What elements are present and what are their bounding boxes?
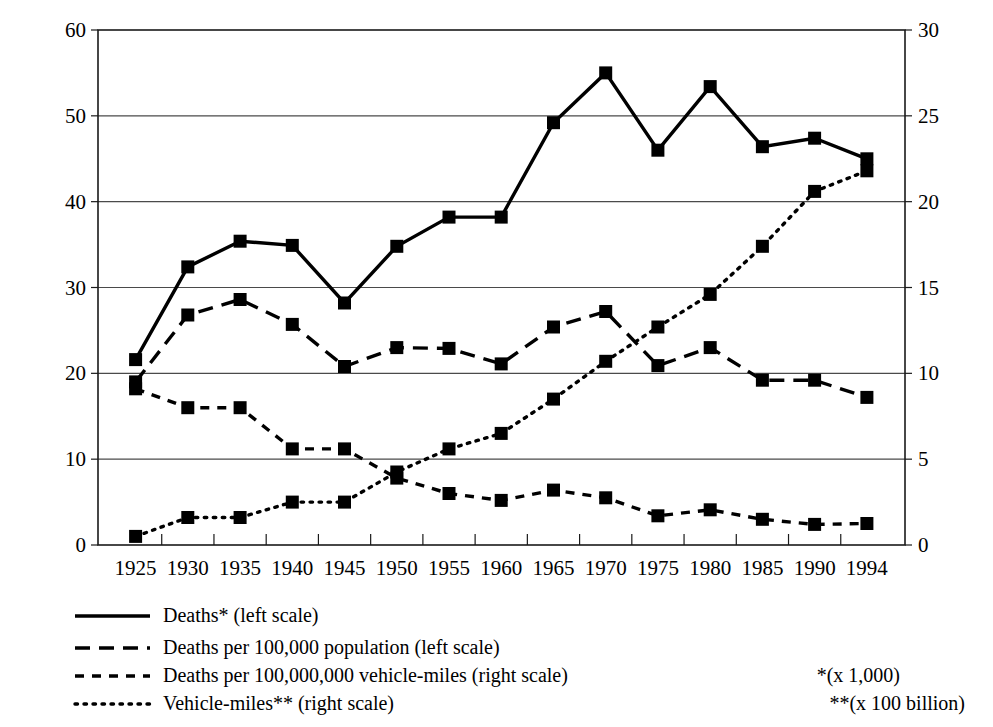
data-point-marker	[495, 427, 508, 440]
y-axis-tick-label: 50	[65, 104, 86, 128]
data-point-marker	[547, 484, 560, 497]
x-axis-tick-label: 1994	[846, 556, 889, 580]
data-point-marker	[547, 116, 560, 129]
data-point-marker	[443, 487, 456, 500]
data-point-marker	[181, 511, 194, 524]
y-axis-tick-label: 30	[65, 276, 86, 300]
data-point-marker	[651, 359, 664, 372]
data-point-marker	[234, 511, 247, 524]
data-point-marker	[338, 297, 351, 310]
data-point-marker	[495, 357, 508, 370]
data-point-marker	[286, 239, 299, 252]
x-axis-tick-label: 1955	[428, 556, 470, 580]
data-point-marker	[756, 140, 769, 153]
y-axis-tick-label: 10	[65, 447, 86, 471]
data-point-marker	[338, 360, 351, 373]
legend-label: Deaths per 100,000 population (left scal…	[163, 636, 500, 659]
y-axis-tick-label: 60	[65, 18, 86, 42]
footnote-deaths-multiplier: *(x 1,000)	[817, 664, 900, 687]
y2-axis-tick-label: 10	[918, 361, 939, 385]
series-2	[129, 293, 873, 404]
data-point-marker	[443, 442, 456, 455]
series-line	[136, 171, 867, 537]
y2-axis-tick-label: 15	[918, 276, 939, 300]
data-point-marker	[234, 293, 247, 306]
data-point-marker	[651, 509, 664, 522]
legend-item-2: Deaths per 100,000 population (left scal…	[75, 636, 500, 659]
series-3	[129, 382, 873, 531]
data-point-marker	[599, 491, 612, 504]
legend-label: Vehicle-miles** (right scale)	[163, 692, 394, 715]
data-point-marker	[286, 318, 299, 331]
chart-figure: 0102030405060051015202530192519301935194…	[0, 0, 993, 727]
data-point-marker	[443, 342, 456, 355]
y2-axis-tick-label: 30	[918, 18, 939, 42]
data-point-marker	[181, 401, 194, 414]
series-1	[129, 66, 873, 366]
data-point-marker	[390, 240, 403, 253]
legend-label: Deaths* (left scale)	[163, 604, 318, 627]
data-point-marker	[443, 211, 456, 224]
data-point-marker	[495, 494, 508, 507]
x-axis-tick-label: 1990	[794, 556, 836, 580]
data-point-marker	[599, 66, 612, 79]
legend-item-4: Vehicle-miles** (right scale)	[75, 692, 394, 715]
data-point-marker	[129, 382, 142, 395]
data-point-marker	[390, 341, 403, 354]
data-point-marker	[808, 185, 821, 198]
data-point-marker	[704, 341, 717, 354]
data-point-marker	[338, 496, 351, 509]
data-point-marker	[286, 442, 299, 455]
data-point-marker	[756, 513, 769, 526]
data-point-marker	[704, 503, 717, 516]
data-point-marker	[547, 393, 560, 406]
x-axis-tick-label: 1965	[532, 556, 574, 580]
data-point-marker	[599, 305, 612, 318]
data-point-marker	[234, 235, 247, 248]
data-point-marker	[651, 144, 664, 157]
data-point-marker	[860, 517, 873, 530]
y2-axis-tick-label: 5	[918, 447, 929, 471]
data-point-marker	[704, 80, 717, 93]
data-point-marker	[286, 496, 299, 509]
x-axis-tick-label: 1940	[271, 556, 313, 580]
data-point-marker	[129, 353, 142, 366]
data-point-marker	[756, 374, 769, 387]
legend-label: Deaths per 100,000,000 vehicle-miles (ri…	[163, 664, 568, 687]
x-axis-tick-label: 1925	[115, 556, 157, 580]
data-point-marker	[599, 355, 612, 368]
footnote-vehicle-miles-multiplier: **(x 100 billion)	[829, 692, 965, 715]
data-point-marker	[860, 152, 873, 165]
x-axis-tick-label: 1975	[637, 556, 679, 580]
data-point-marker	[808, 374, 821, 387]
data-point-marker	[651, 321, 664, 334]
data-point-marker	[129, 530, 142, 543]
x-axis-tick-label: 1980	[689, 556, 731, 580]
data-point-marker	[808, 518, 821, 531]
y-axis-tick-label: 0	[76, 533, 87, 557]
data-point-marker	[547, 321, 560, 334]
x-axis-tick-label: 1945	[324, 556, 366, 580]
x-axis-tick-label: 1960	[480, 556, 522, 580]
data-point-marker	[234, 401, 247, 414]
x-axis-tick-label: 1970	[585, 556, 627, 580]
data-point-marker	[390, 466, 403, 479]
data-point-marker	[495, 211, 508, 224]
traffic-deaths-line-chart: 0102030405060051015202530192519301935194…	[0, 0, 993, 727]
y2-axis-tick-label: 0	[918, 533, 929, 557]
data-point-marker	[808, 132, 821, 145]
x-axis-tick-label: 1935	[219, 556, 261, 580]
data-point-marker	[704, 288, 717, 301]
y-axis-tick-label: 20	[65, 361, 86, 385]
data-point-marker	[338, 442, 351, 455]
legend-item-3: Deaths per 100,000,000 vehicle-miles (ri…	[75, 664, 568, 687]
x-axis-tick-label: 1930	[167, 556, 209, 580]
data-point-marker	[181, 260, 194, 273]
data-point-marker	[756, 240, 769, 253]
data-point-marker	[860, 164, 873, 177]
data-point-marker	[181, 309, 194, 322]
x-axis-tick-label: 1985	[741, 556, 783, 580]
y2-axis-tick-label: 20	[918, 190, 939, 214]
y2-axis-tick-label: 25	[918, 104, 939, 128]
legend-item-1: Deaths* (left scale)	[75, 604, 318, 627]
